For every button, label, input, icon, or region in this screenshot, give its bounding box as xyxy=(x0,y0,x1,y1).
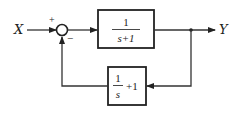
forward-denominator: s+1 xyxy=(117,32,134,44)
feedback-block: 1 s +1 xyxy=(108,67,146,105)
plus-sign: + xyxy=(49,14,55,25)
output-label-y: Y xyxy=(219,22,229,37)
feedback-numerator: 1 xyxy=(115,72,121,84)
forward-numerator: 1 xyxy=(123,16,129,28)
summing-junction xyxy=(57,25,68,36)
feedback-denominator: s xyxy=(116,88,120,100)
block-diagram: X + − 1 s+1 Y 1 s +1 xyxy=(0,0,239,115)
forward-block: 1 s+1 xyxy=(98,10,154,48)
minus-sign: − xyxy=(67,32,73,44)
input-label-x: X xyxy=(13,22,24,37)
feedback-suffix: +1 xyxy=(126,80,138,92)
